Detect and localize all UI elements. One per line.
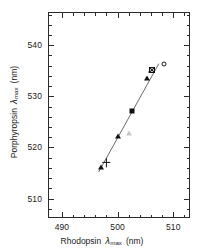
axis-tick [151, 12, 152, 16]
x-tick-label: 490 [55, 222, 69, 232]
axis-tick [187, 209, 191, 210]
axis-tick [184, 12, 185, 16]
plot-area [48, 12, 190, 218]
axis-tick [187, 107, 191, 108]
axis-tick [187, 66, 191, 67]
axis-tick [187, 55, 191, 56]
axis-tick [187, 15, 191, 16]
axis-tick [187, 168, 191, 169]
axis-tick [140, 12, 141, 16]
x-tick-label: 500 [110, 222, 124, 232]
axis-tick [162, 12, 163, 16]
y-axis-title-main: Porphyropsin [9, 108, 19, 158]
data-point-triangle-open [126, 130, 132, 135]
axis-tick [48, 55, 52, 56]
x-axis-unit: (nm) [126, 236, 143, 246]
y-axis-lambda-symbol: λ [9, 99, 19, 104]
axis-tick [184, 147, 190, 148]
axis-tick [48, 178, 52, 179]
regression-line [48, 12, 190, 218]
axis-tick [48, 45, 54, 46]
axis-tick [129, 215, 130, 219]
axis-tick [48, 15, 52, 16]
axis-tick [187, 35, 191, 36]
axis-tick [95, 215, 96, 219]
y-axis-unit: (nm) [9, 66, 19, 83]
axis-tick [48, 127, 52, 128]
axis-tick [48, 117, 52, 118]
axis-tick [184, 215, 185, 219]
axis-tick [140, 215, 141, 219]
axis-tick [48, 76, 52, 77]
axis-tick [48, 86, 52, 87]
axis-tick [84, 215, 85, 219]
axis-tick [106, 12, 107, 16]
x-axis-title: Rhodopsinλmax(nm) [0, 236, 204, 246]
axis-tick [118, 12, 119, 18]
axis-tick [48, 209, 52, 210]
axis-tick [173, 212, 174, 218]
axis-tick [184, 45, 190, 46]
axis-tick [95, 12, 96, 16]
axis-tick [187, 158, 191, 159]
axis-tick [184, 96, 190, 97]
axis-tick [187, 188, 191, 189]
data-point-square-crossed [149, 67, 155, 73]
axis-tick [48, 168, 52, 169]
axis-tick [62, 212, 63, 218]
axis-tick [62, 12, 63, 18]
axis-tick [187, 117, 191, 118]
x-tick-label: 510 [166, 222, 180, 232]
axis-tick [187, 127, 191, 128]
axis-tick [48, 96, 54, 97]
axis-tick [48, 188, 52, 189]
axis-tick [48, 199, 54, 200]
axis-tick [187, 178, 191, 179]
axis-tick [162, 215, 163, 219]
axis-tick [187, 86, 191, 87]
data-point-square-filled [130, 108, 135, 113]
axis-tick [48, 25, 52, 26]
axis-tick [48, 137, 52, 138]
x-axis-title-main: Rhodopsin [61, 236, 102, 246]
axis-tick [173, 12, 174, 18]
axis-tick [73, 12, 74, 16]
data-point-triangle-filled [144, 76, 150, 81]
axis-tick [184, 199, 190, 200]
axis-tick [118, 212, 119, 218]
porphyropsin-rhodopsin-scatter-figure: 490500510510520530540 Rhodopsinλmax(nm) … [0, 0, 204, 252]
axis-tick [84, 12, 85, 16]
axis-tick [48, 107, 52, 108]
axis-tick [106, 215, 107, 219]
x-axis-max-subscript: max [110, 239, 122, 246]
axis-tick [151, 215, 152, 219]
axis-tick [73, 215, 74, 219]
axis-tick [48, 35, 52, 36]
axis-tick [48, 147, 54, 148]
axis-tick [129, 12, 130, 16]
axis-tick [187, 76, 191, 77]
axis-tick [187, 25, 191, 26]
y-axis-max-subscript: max [12, 87, 19, 99]
y-axis-title: Porphyropsinλmax(nm) [9, 10, 19, 214]
data-point-plus [102, 158, 111, 167]
axis-tick [187, 137, 191, 138]
data-point-circle-open [162, 62, 167, 67]
data-point-triangle-filled [115, 133, 121, 138]
axis-tick [48, 158, 52, 159]
axis-tick [48, 66, 52, 67]
